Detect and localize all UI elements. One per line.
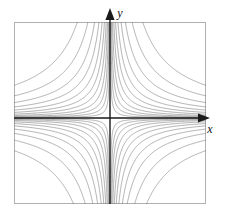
y-axis-label: y	[116, 6, 123, 20]
contour-plot-figure: x y	[0, 0, 228, 218]
x-axis-label: x	[206, 122, 213, 136]
plot-canvas: x y	[0, 0, 228, 218]
